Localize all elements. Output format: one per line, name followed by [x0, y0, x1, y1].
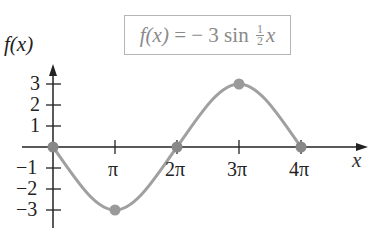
formula-eq: = − 3 sin [169, 23, 254, 48]
x-tick-label: 2π [165, 158, 185, 181]
y-axis-arrow-icon [49, 64, 57, 76]
formula-box: f(x) = − 3 sin 1 2 x [124, 15, 291, 55]
x-tick-label: π [108, 158, 118, 181]
x-tick-label: 3π [227, 158, 247, 181]
x-axis-label: x [352, 148, 361, 173]
y-axis-label: f(x) [4, 32, 33, 57]
y-tick-label: 2 [30, 93, 40, 116]
formula-var: x [266, 23, 275, 48]
formula-fraction: 1 2 [256, 24, 264, 47]
formula-lhs: f(x) [140, 23, 169, 48]
y-tick-label: −2 [16, 177, 37, 200]
y-tick-label: −1 [16, 156, 37, 179]
y-tick-label: −3 [16, 198, 37, 221]
y-tick-label: 3 [30, 72, 40, 95]
x-tick-label: 4π [289, 158, 309, 181]
y-tick-label: 1 [30, 114, 40, 137]
